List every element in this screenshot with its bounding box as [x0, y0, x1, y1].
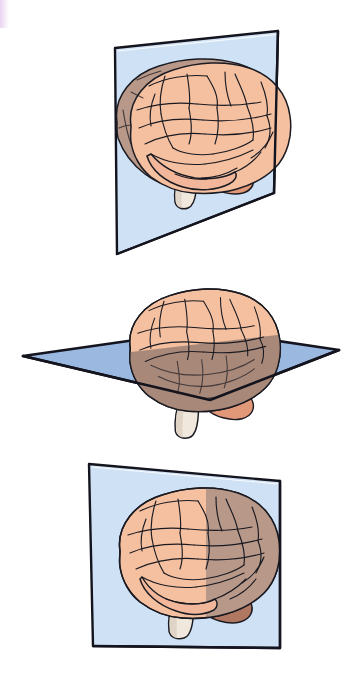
- panel-sagittal: [115, 31, 291, 254]
- panel-horizontal: [23, 289, 339, 438]
- anatomical-planes-figure: Anatomical planes of section through the…: [0, 0, 360, 699]
- figure-canvas: [0, 0, 360, 699]
- panel-coronal: [89, 464, 310, 648]
